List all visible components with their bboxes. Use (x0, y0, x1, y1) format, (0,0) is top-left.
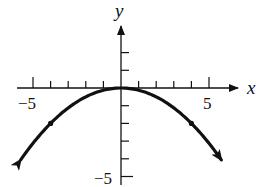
x-tick-label-5: 5 (203, 94, 212, 113)
x-tick-label-neg5: −5 (18, 94, 36, 113)
parabola-chart: y x −5 5 −5 (0, 0, 261, 187)
y-axis-label: y (113, 0, 124, 21)
curve-point (189, 121, 194, 126)
x-axis (17, 77, 238, 88)
curve-point (48, 121, 53, 126)
y-axis-ticks (121, 53, 133, 177)
y-tick-label-neg5: −5 (94, 169, 112, 187)
x-axis-label: x (246, 77, 256, 98)
y-axis (121, 26, 133, 185)
